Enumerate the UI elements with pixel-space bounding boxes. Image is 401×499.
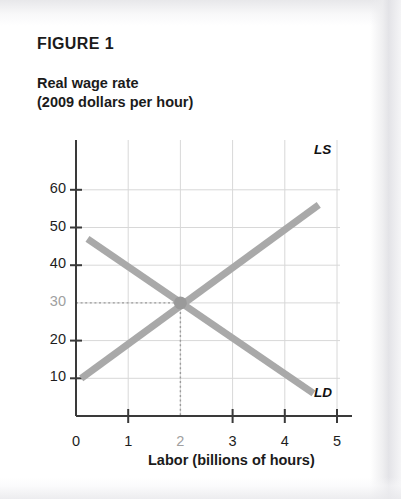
- supply-demand-curves: [81, 205, 319, 394]
- x-axis-title: Labor (billions of hours): [148, 452, 315, 468]
- x-tick-label-4: 4: [270, 433, 300, 449]
- x-tick-label-1: 1: [113, 433, 143, 449]
- y-tick-label-40: 40: [30, 255, 66, 271]
- figure-page: FIGURE 1 Real wage rate (2009 dollars pe…: [0, 0, 401, 499]
- x-tick-label-0: 0: [61, 433, 91, 449]
- equilibrium-point-marker: [174, 296, 187, 309]
- y-tick-label-10: 10: [30, 368, 66, 384]
- y-tick-label-20: 20: [30, 331, 66, 347]
- x-tick-label-5: 5: [322, 433, 352, 449]
- x-tick-label-2: 2: [165, 433, 195, 449]
- y-tick-label-50: 50: [30, 218, 66, 234]
- x-tick-label-3: 3: [218, 433, 248, 449]
- y-tick-label-30: 30: [30, 293, 66, 309]
- curve-label-ld: LD: [314, 385, 332, 400]
- labor-market-chart: [0, 0, 401, 499]
- y-tick-label-60: 60: [30, 180, 66, 196]
- vertical-gridlines: [128, 140, 337, 416]
- curve-label-ls: LS: [314, 142, 331, 157]
